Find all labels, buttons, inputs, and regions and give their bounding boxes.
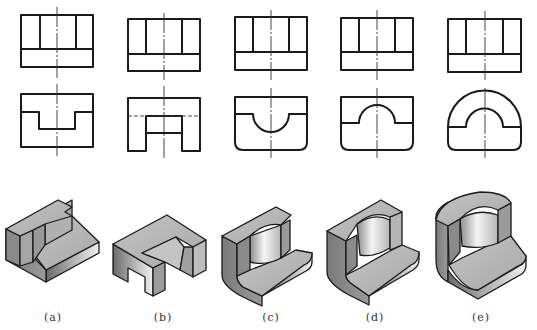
front-view-e xyxy=(448,88,521,158)
top-view-c xyxy=(235,10,307,80)
label-c: (c) xyxy=(251,311,291,324)
front-view-b xyxy=(128,86,200,158)
label-b: (b) xyxy=(143,311,183,324)
label-a: (a) xyxy=(33,311,73,324)
top-view-d xyxy=(341,10,413,80)
label-e: (e) xyxy=(461,311,501,324)
front-view-c xyxy=(235,88,307,158)
projection-diagram xyxy=(0,0,537,330)
top-view-b xyxy=(128,13,200,80)
front-view-d xyxy=(341,88,413,158)
isometric-e xyxy=(436,192,526,299)
label-d: (d) xyxy=(355,311,395,324)
front-view-a xyxy=(21,84,93,157)
isometric-b xyxy=(113,215,206,296)
top-view-a xyxy=(21,7,93,78)
top-view-e xyxy=(448,11,521,80)
isometric-a xyxy=(6,200,99,282)
isometric-d xyxy=(327,200,419,305)
isometric-c xyxy=(222,207,312,306)
